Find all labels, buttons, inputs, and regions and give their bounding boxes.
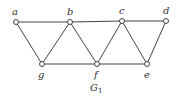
label-g: g — [38, 69, 44, 80]
node-b — [68, 20, 73, 25]
edge-a-g — [16, 22, 42, 64]
label-b: b — [67, 6, 73, 17]
node-c — [120, 19, 125, 24]
edge-e-d — [147, 21, 166, 64]
label-a: a — [12, 6, 18, 17]
label-d: d — [163, 5, 169, 16]
labels: a b c d g f e — [12, 5, 169, 80]
nodes — [14, 19, 169, 67]
edges — [16, 21, 166, 64]
edge-g-b — [42, 22, 70, 64]
node-f — [95, 62, 100, 67]
label-f: f — [93, 69, 100, 80]
caption-g: G — [90, 82, 98, 93]
node-g — [40, 62, 45, 67]
graph-g1: a b c d g f e G 1 — [0, 0, 181, 103]
node-e — [145, 62, 150, 67]
label-e: e — [144, 69, 150, 80]
caption: G 1 — [90, 82, 102, 95]
edge-c-e — [122, 21, 147, 64]
edge-b-f — [70, 22, 97, 64]
node-d — [164, 19, 169, 24]
caption-subscript: 1 — [98, 87, 102, 95]
node-a — [14, 20, 19, 25]
edge-b-c — [70, 21, 122, 22]
label-c: c — [119, 5, 125, 16]
edge-f-c — [97, 21, 122, 64]
